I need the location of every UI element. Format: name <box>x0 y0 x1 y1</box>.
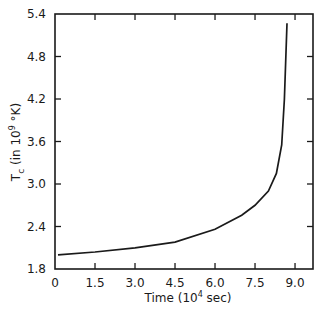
y-tick-label: 2.4 <box>27 220 46 234</box>
y-axis-ticks: 1.82.43.03.64.24.85.4 <box>27 7 313 276</box>
temperature-curve <box>58 23 287 255</box>
x-tick-label: 4.5 <box>165 276 184 290</box>
x-axis-title: Time (104 sec) <box>144 290 232 305</box>
chart: 01.53.04.56.07.59.0 1.82.43.03.64.24.85.… <box>0 0 324 312</box>
y-tick-label: 3.6 <box>27 135 46 149</box>
y-tick-label: 5.4 <box>27 7 46 21</box>
x-tick-label: 9.0 <box>285 276 304 290</box>
x-tick-label: 7.5 <box>245 276 264 290</box>
y-tick-label: 1.8 <box>27 262 46 276</box>
y-axis-title: Tc (in 109 °K) <box>8 103 26 182</box>
x-axis-ticks: 01.53.04.56.07.59.0 <box>51 14 304 290</box>
y-tick-label: 4.8 <box>27 50 46 64</box>
x-tick-label: 1.5 <box>85 276 104 290</box>
x-tick-label: 3.0 <box>125 276 144 290</box>
y-tick-label: 4.2 <box>27 92 46 106</box>
x-tick-label: 6.0 <box>205 276 224 290</box>
x-tick-label: 0 <box>51 276 59 290</box>
plot-frame <box>55 14 313 269</box>
y-tick-label: 3.0 <box>27 177 46 191</box>
